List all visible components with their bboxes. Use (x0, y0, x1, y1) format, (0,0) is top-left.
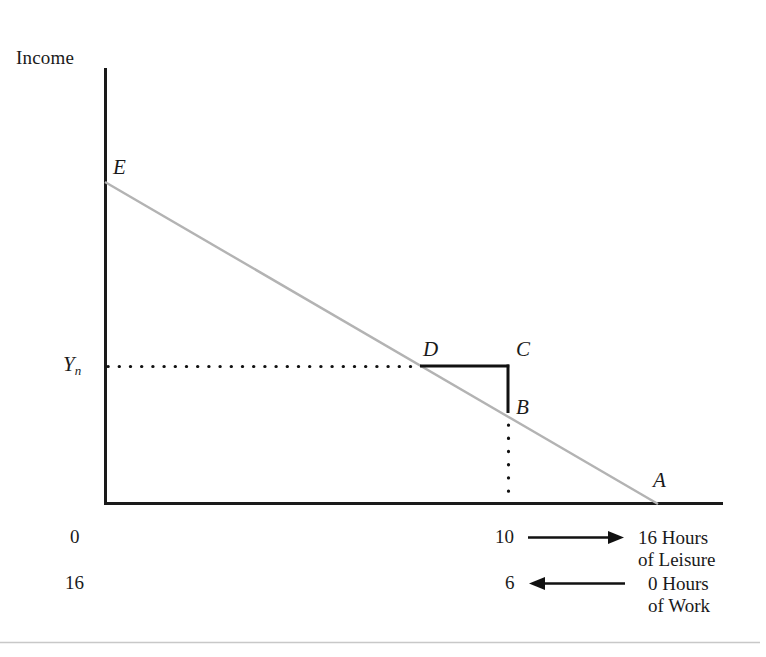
y-axis-value-label: Yn (63, 354, 81, 375)
leisure-tick-origin: 0 (70, 527, 80, 546)
point-label-d: D (423, 339, 438, 360)
labor-leisure-budget-constraint-figure: Income Yn E D C B A 0 10 16 Hours of Lei… (0, 0, 766, 657)
y-axis-value-subscript: n (75, 363, 82, 378)
leisure-caption-line2: of Leisure (638, 549, 716, 571)
work-caption-line2: of Work (648, 595, 710, 617)
leisure-caption-line1: 16 Hours (638, 527, 708, 548)
point-label-c: C (516, 339, 530, 360)
work-caption: 0 Hours of Work (648, 573, 710, 618)
budget-line (105, 182, 658, 504)
y-axis-value-letter: Y (63, 352, 75, 376)
y-axis-title: Income (16, 48, 74, 67)
point-label-e: E (113, 157, 126, 178)
leisure-arrow-head (608, 531, 624, 544)
work-tick-origin: 16 (65, 573, 84, 592)
work-arrow-head (529, 577, 545, 590)
leisure-tick-mid: 10 (495, 527, 514, 546)
point-label-b: B (516, 397, 529, 418)
point-label-a: A (653, 470, 666, 491)
work-tick-mid: 6 (505, 573, 515, 592)
leisure-caption: 16 Hours of Leisure (638, 527, 716, 572)
work-caption-line1: 0 Hours (648, 573, 709, 594)
